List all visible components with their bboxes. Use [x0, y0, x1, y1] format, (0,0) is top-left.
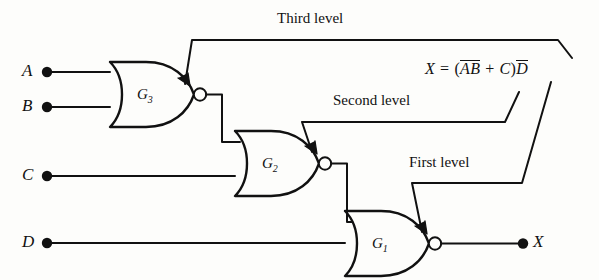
wire-g3-to-g2 [206, 95, 240, 143]
equation-equals: = [440, 60, 449, 77]
equation-term-a-complement: A [460, 60, 470, 77]
gate-g2-bubble [319, 157, 331, 169]
terminal-dot-c [42, 171, 52, 181]
equation-term-c: C [500, 60, 511, 77]
terminal-dot-b [42, 102, 52, 112]
logic-circuit-figure: A B C D X G3 G2 G1 Third level Second le… [0, 0, 599, 280]
gate-label-g2-subscript: 2 [273, 163, 278, 174]
equation-term-b-complement: B [470, 60, 480, 77]
gate-label-g1-letter: G [372, 235, 383, 251]
gate-g1-bubble [429, 237, 441, 249]
gate-label-g3-letter: G [137, 86, 148, 102]
terminal-dot-d [42, 238, 52, 248]
terminal-dot-a [42, 67, 52, 77]
circuit-schematic [0, 0, 599, 280]
gate-label-g3-subscript: 3 [148, 94, 153, 105]
annotation-third-level: Third level [277, 11, 343, 26]
annotation-second-level: Second level [333, 93, 410, 108]
wire-g2-to-g1 [331, 164, 352, 223]
gate-label-g1: G1 [372, 235, 388, 254]
gate-label-g2-letter: G [262, 155, 273, 171]
input-label-c: C [22, 166, 33, 183]
boolean-equation: X=(AB+C)D [425, 60, 528, 78]
input-label-b: B [22, 97, 32, 114]
annotation-first-level: First level [409, 155, 469, 170]
equation-term-d-complement: D [516, 60, 528, 77]
gate-label-g3: G3 [137, 86, 153, 105]
gate-g3-bubble [194, 88, 206, 100]
gate-label-g1-subscript: 1 [383, 243, 388, 254]
terminal-dot-x [518, 238, 528, 248]
input-label-a: A [22, 62, 32, 79]
input-label-d: D [22, 233, 34, 250]
gate-label-g2: G2 [262, 155, 278, 174]
output-label-x: X [533, 233, 543, 250]
equation-output: X [425, 60, 435, 77]
equation-plus: + [485, 60, 494, 77]
